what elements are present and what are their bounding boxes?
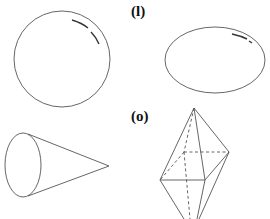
- cone-figure: [5, 133, 109, 197]
- label-o: (o): [131, 109, 149, 124]
- ellipsoid-figure: [165, 27, 265, 93]
- sphere-figure: [14, 11, 110, 107]
- label-l: (l): [131, 4, 145, 19]
- bipyramid-figure: [160, 108, 229, 219]
